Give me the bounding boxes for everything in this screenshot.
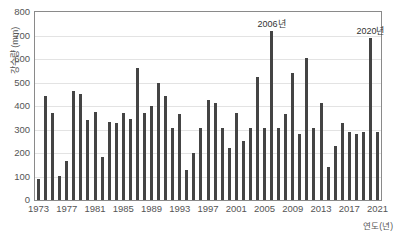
bar bbox=[79, 94, 82, 200]
bar-slot bbox=[226, 12, 233, 200]
bar-series bbox=[35, 12, 381, 200]
x-tick-label: 1973 bbox=[28, 203, 49, 214]
bar bbox=[65, 161, 68, 200]
bar-slot bbox=[275, 12, 282, 200]
x-tick-label: 1997 bbox=[197, 203, 218, 214]
bar bbox=[178, 114, 181, 200]
bar bbox=[185, 170, 188, 200]
bar bbox=[249, 128, 252, 200]
bar bbox=[362, 132, 365, 200]
bar-slot bbox=[247, 12, 254, 200]
bar bbox=[256, 77, 259, 200]
y-tick-label: 500 bbox=[14, 76, 30, 87]
bar bbox=[341, 123, 344, 200]
bar-slot bbox=[127, 12, 134, 200]
bar bbox=[312, 128, 315, 200]
bar-slot bbox=[339, 12, 346, 200]
bar-slot bbox=[197, 12, 204, 200]
bar-slot bbox=[303, 12, 310, 200]
bar-slot bbox=[99, 12, 106, 200]
bar bbox=[270, 31, 273, 200]
bar bbox=[58, 176, 61, 200]
x-tick-label: 1981 bbox=[84, 203, 105, 214]
x-tick-label: 1989 bbox=[141, 203, 162, 214]
bar bbox=[108, 122, 111, 200]
y-tick-label: 800 bbox=[14, 6, 30, 17]
bar-slot bbox=[374, 12, 381, 200]
bar bbox=[199, 128, 202, 200]
bar-slot bbox=[176, 12, 183, 200]
bar bbox=[291, 73, 294, 200]
bar bbox=[164, 96, 167, 200]
bar bbox=[298, 134, 301, 200]
bar-slot bbox=[77, 12, 84, 200]
x-tick-label: 2001 bbox=[226, 203, 247, 214]
bar bbox=[320, 103, 323, 200]
bar-slot bbox=[42, 12, 49, 200]
x-axis-tick-labels: 1973197719811985198919931997200120052009… bbox=[35, 203, 381, 217]
bar-slot bbox=[261, 12, 268, 200]
bar bbox=[101, 157, 104, 200]
bar-annotation: 2020년 bbox=[356, 24, 384, 37]
x-tick-label: 1977 bbox=[56, 203, 77, 214]
x-tick-label: 1993 bbox=[169, 203, 190, 214]
bar-slot bbox=[162, 12, 169, 200]
bar bbox=[44, 96, 47, 200]
bar bbox=[355, 134, 358, 200]
bar-slot bbox=[289, 12, 296, 200]
bar-slot bbox=[49, 12, 56, 200]
bar bbox=[235, 113, 238, 200]
y-tick-label: 100 bbox=[14, 170, 30, 181]
bar bbox=[263, 128, 266, 200]
bar-slot bbox=[134, 12, 141, 200]
bar bbox=[221, 128, 224, 200]
bar bbox=[207, 100, 210, 200]
x-tick-label: 2005 bbox=[254, 203, 275, 214]
x-axis-title: 연도(년) bbox=[363, 219, 393, 231]
bar bbox=[214, 103, 217, 200]
x-tick-label: 1985 bbox=[113, 203, 134, 214]
bar bbox=[171, 128, 174, 200]
bar bbox=[284, 114, 287, 200]
bar-slot bbox=[254, 12, 261, 200]
bar-slot bbox=[233, 12, 240, 200]
bar-slot bbox=[282, 12, 289, 200]
bar-slot bbox=[155, 12, 162, 200]
bar bbox=[376, 132, 379, 200]
bar-slot bbox=[190, 12, 197, 200]
bar-slot bbox=[353, 12, 360, 200]
y-axis-tick-labels: 0100200300400500600700800 bbox=[0, 0, 34, 201]
bar bbox=[334, 146, 337, 200]
x-tick-label: 2017 bbox=[339, 203, 360, 214]
bar bbox=[129, 119, 132, 200]
bar-slot bbox=[183, 12, 190, 200]
y-tick-label: 600 bbox=[14, 53, 30, 64]
bar-slot bbox=[63, 12, 70, 200]
bar-slot bbox=[169, 12, 176, 200]
bar-slot bbox=[367, 12, 374, 200]
bar bbox=[277, 128, 280, 200]
bar bbox=[228, 148, 231, 200]
bar-slot bbox=[310, 12, 317, 200]
x-tick-label: 2013 bbox=[310, 203, 331, 214]
bar-slot bbox=[296, 12, 303, 200]
bar bbox=[115, 123, 118, 200]
bar-slot bbox=[360, 12, 367, 200]
bar bbox=[305, 58, 308, 200]
x-tick-label: 2021 bbox=[367, 203, 388, 214]
bar-annotation: 2006년 bbox=[258, 17, 286, 30]
bar bbox=[37, 179, 40, 200]
bar-slot bbox=[120, 12, 127, 200]
rainfall-bar-chart: 강수량 (mm) 0100200300400500600700800 19731… bbox=[0, 0, 397, 250]
bar-slot bbox=[84, 12, 91, 200]
bar bbox=[242, 141, 245, 200]
bar-slot bbox=[318, 12, 325, 200]
bar-slot bbox=[325, 12, 332, 200]
bar bbox=[143, 113, 146, 200]
bar bbox=[136, 68, 139, 200]
bar bbox=[192, 153, 195, 200]
x-tick-label: 2009 bbox=[282, 203, 303, 214]
bar-slot bbox=[56, 12, 63, 200]
y-tick-label: 400 bbox=[14, 100, 30, 111]
bar-slot bbox=[106, 12, 113, 200]
